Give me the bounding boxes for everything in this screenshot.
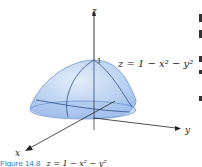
caption-equation: z = 1 − x² − y²	[46, 159, 106, 167]
y-axis-label: y	[185, 125, 190, 135]
x-axis-label: x	[15, 148, 20, 158]
cropped-text-fragment	[199, 30, 202, 38]
figure-caption: Figure 14.8z = 1 − x² − y²	[0, 159, 107, 167]
cropped-text-fragment	[199, 70, 202, 74]
cropped-text-fragment	[199, 96, 202, 101]
apex-tick-label: 1	[97, 57, 101, 65]
cropped-text-fragment	[199, 56, 202, 62]
paraboloid-figure	[0, 0, 202, 167]
y-axis	[94, 118, 181, 131]
z-axis	[92, 10, 96, 62]
figure-number: Figure 14.8	[0, 159, 40, 167]
z-axis-label: z	[92, 6, 97, 16]
cropped-text-fragment	[199, 14, 202, 22]
equation-label: z = 1 − x² − y²	[118, 58, 193, 69]
